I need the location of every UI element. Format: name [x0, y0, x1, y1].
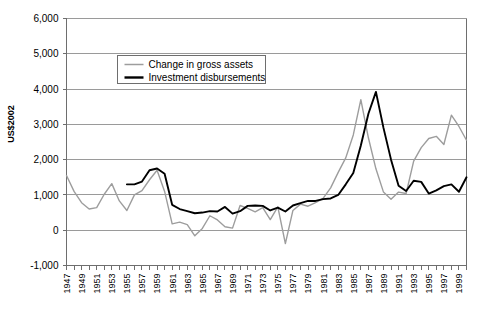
xtick-label-1963: 1963	[183, 274, 193, 294]
ytick-label-0: 0	[53, 225, 59, 236]
legend-label-change-in-gross-assets: Change in gross assets	[149, 59, 254, 70]
xtick-label-1977: 1977	[288, 274, 298, 294]
xtick-label-1947: 1947	[62, 274, 72, 294]
legend-label-investment-disbursements: Investment disbursements	[149, 72, 266, 83]
xtick-label-1983: 1983	[334, 274, 344, 294]
xtick-label-1981: 1981	[319, 274, 329, 294]
xtick-label-1993: 1993	[409, 274, 419, 294]
xtick-label-1959: 1959	[152, 274, 162, 294]
xtick-label-1955: 1955	[122, 274, 132, 294]
ytick-label-2,000: 2,000	[33, 154, 58, 165]
xtick-label-1965: 1965	[198, 274, 208, 294]
xtick-label-1949: 1949	[77, 274, 87, 294]
xtick-label-1971: 1971	[243, 274, 253, 294]
y-axis-title: US$2002	[6, 105, 16, 143]
xtick-label-1953: 1953	[107, 274, 117, 294]
ytick-label-4,000: 4,000	[33, 84, 58, 95]
ytick-label-6,000: 6,000	[33, 13, 58, 24]
xtick-label-1991: 1991	[394, 274, 404, 294]
line-chart: 6,0005,0004,0003,0002,0001,0000-1,000194…	[0, 0, 477, 325]
xtick-label-1967: 1967	[213, 274, 223, 294]
chart-container: 6,0005,0004,0003,0002,0001,0000-1,000194…	[0, 0, 477, 325]
xtick-label-1969: 1969	[228, 274, 238, 294]
xtick-label-1957: 1957	[137, 274, 147, 294]
xtick-label-1997: 1997	[439, 274, 449, 294]
xtick-label-1985: 1985	[349, 274, 359, 294]
ytick-label-1,000: 1,000	[33, 190, 58, 201]
xtick-label-1975: 1975	[273, 274, 283, 294]
xtick-label-1987: 1987	[364, 274, 374, 294]
xtick-label-1951: 1951	[92, 274, 102, 294]
series-line-change-in-gross-assets	[67, 100, 467, 244]
xtick-label-1995: 1995	[424, 274, 434, 294]
xtick-label-1999: 1999	[454, 274, 464, 294]
xtick-label-1973: 1973	[258, 274, 268, 294]
ytick-label-3,000: 3,000	[33, 119, 58, 130]
xtick-label-1979: 1979	[303, 274, 313, 294]
xtick-label-1989: 1989	[379, 274, 389, 294]
ytick-label-5,000: 5,000	[33, 48, 58, 59]
ytick-label--1,000: -1,000	[30, 260, 59, 271]
xtick-label-1961: 1961	[168, 274, 178, 294]
